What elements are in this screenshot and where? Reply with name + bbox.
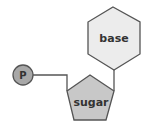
phosphate-sugar-bond: [33, 75, 67, 91]
base-label: base: [99, 32, 128, 45]
nucleotide-diagram: base sugar P: [0, 0, 150, 129]
phosphate-label: P: [19, 70, 26, 81]
phosphate-node: P: [13, 65, 33, 85]
sugar-node: sugar: [67, 75, 114, 120]
base-node: base: [88, 7, 140, 70]
sugar-label: sugar: [73, 96, 109, 109]
